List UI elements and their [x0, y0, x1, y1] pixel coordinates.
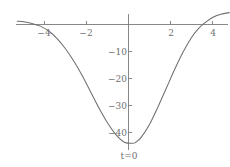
x-tick-label-4: 4: [210, 29, 216, 38]
y-tick-label--20: −20: [108, 75, 127, 84]
x-tick-label--4: −4: [37, 29, 50, 38]
y-tick-label--10: −10: [108, 48, 127, 57]
y-tick-label--40: −40: [108, 129, 127, 138]
y-tick-label--30: −30: [108, 102, 127, 111]
plot-figure: −4 −2 2 4 −10 −20 −30 −40 t=0: [0, 0, 230, 167]
x-tick-label--2: −2: [79, 29, 92, 38]
y-axis-ticks: [129, 52, 133, 133]
plot-canvas: [0, 0, 230, 167]
x-tick-label-2: 2: [168, 29, 174, 38]
origin-annotation: t=0: [121, 152, 138, 161]
